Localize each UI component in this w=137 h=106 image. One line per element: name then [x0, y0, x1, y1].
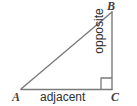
right-triangle-diagram: A B C adjacent opposite — [0, 0, 137, 106]
side-label-opposite: opposite — [93, 0, 106, 62]
vertex-label-b: B — [107, 0, 115, 12]
vertex-label-c: C — [111, 91, 119, 103]
vertex-label-a: A — [12, 91, 20, 103]
side-label-adjacent: adjacent — [40, 91, 85, 104]
right-angle-marker-icon — [101, 78, 112, 89]
